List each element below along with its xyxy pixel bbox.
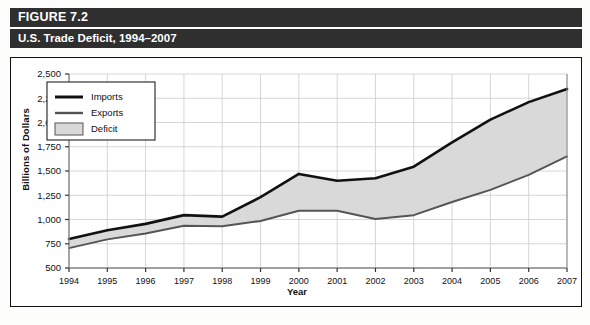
svg-text:2007: 2007 xyxy=(557,276,577,286)
svg-text:500: 500 xyxy=(45,262,61,273)
svg-text:1,750: 1,750 xyxy=(37,141,61,152)
svg-text:2001: 2001 xyxy=(327,276,347,286)
figure-title-bar: U.S. Trade Deficit, 1994–2007 xyxy=(10,29,582,48)
svg-text:1996: 1996 xyxy=(136,276,156,286)
figure-container: FIGURE 7.2 U.S. Trade Deficit, 1994–2007… xyxy=(0,0,590,325)
svg-text:2003: 2003 xyxy=(404,276,424,286)
svg-text:Imports: Imports xyxy=(91,91,123,102)
svg-text:1999: 1999 xyxy=(251,276,271,286)
svg-text:750: 750 xyxy=(45,238,61,249)
svg-text:2005: 2005 xyxy=(480,276,500,286)
svg-text:2004: 2004 xyxy=(442,276,462,286)
chart-panel: Billions of Dollars Year 5007501,0001,25… xyxy=(10,57,582,307)
x-axis-label: Year xyxy=(11,286,583,297)
figure-number-bar: FIGURE 7.2 xyxy=(10,8,582,27)
y-axis-label: Billions of Dollars xyxy=(20,90,31,210)
svg-text:1,000: 1,000 xyxy=(37,214,61,225)
svg-text:1998: 1998 xyxy=(212,276,232,286)
svg-text:Deficit: Deficit xyxy=(91,123,118,134)
svg-text:2002: 2002 xyxy=(365,276,385,286)
svg-text:2006: 2006 xyxy=(519,276,539,286)
svg-text:1,500: 1,500 xyxy=(37,165,61,176)
svg-text:1997: 1997 xyxy=(174,276,194,286)
svg-text:1995: 1995 xyxy=(97,276,117,286)
figure-header: FIGURE 7.2 U.S. Trade Deficit, 1994–2007 xyxy=(10,8,582,48)
svg-text:2,500: 2,500 xyxy=(37,68,61,79)
chart-area: Billions of Dollars Year 5007501,0001,25… xyxy=(11,58,583,308)
svg-text:1,250: 1,250 xyxy=(37,190,61,201)
svg-text:Exports: Exports xyxy=(91,107,123,118)
trade-deficit-chart: 5007501,0001,2501,5001,7502,0002,2502,50… xyxy=(11,58,583,308)
svg-text:1994: 1994 xyxy=(59,276,79,286)
svg-text:2000: 2000 xyxy=(289,276,309,286)
page-footnote-cropped xyxy=(0,313,590,325)
